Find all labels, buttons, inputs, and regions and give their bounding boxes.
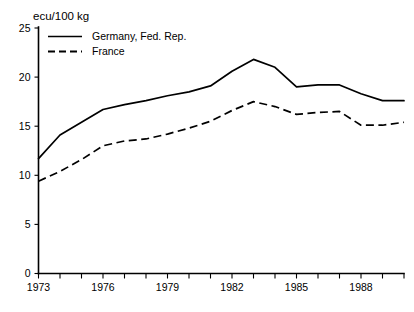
y-tick-label: 25: [19, 22, 31, 34]
y-tick-label: 20: [19, 71, 31, 83]
chart-container: ecu/100 kg 0510152025 197319761979198219…: [0, 0, 414, 312]
chart-legend: Germany, Fed. Rep. France: [48, 30, 186, 57]
x-tick-label: 1976: [91, 281, 115, 293]
x-axis-ticks: 197319761979198219851988: [27, 274, 404, 293]
x-tick-label: 1982: [220, 281, 244, 293]
y-tick-label: 15: [19, 120, 31, 132]
y-tick-label: 0: [25, 267, 31, 279]
x-tick-label: 1985: [285, 281, 309, 293]
line-chart: ecu/100 kg 0510152025 197319761979198219…: [0, 0, 414, 312]
x-tick-label: 1988: [349, 281, 373, 293]
y-axis-ticks: 0510152025: [19, 22, 39, 280]
legend-label-france: France: [92, 45, 125, 57]
y-tick-label: 5: [25, 218, 31, 230]
x-tick-label: 1979: [156, 281, 180, 293]
y-tick-label: 10: [19, 169, 31, 181]
x-tick-label: 1973: [27, 281, 51, 293]
series-line-germany: [39, 59, 405, 158]
legend-label-germany: Germany, Fed. Rep.: [92, 30, 186, 42]
series-line-france: [39, 102, 405, 182]
chart-unit-title: ecu/100 kg: [33, 10, 89, 22]
